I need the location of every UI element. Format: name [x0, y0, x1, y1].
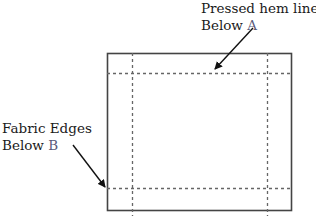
- arrow-a-icon: [215, 28, 253, 69]
- hem-lines: [107, 53, 291, 216]
- fabric-edge-rectangle: [108, 54, 292, 211]
- arrow-b-icon: [73, 145, 105, 187]
- fabric-diagram: [0, 0, 316, 222]
